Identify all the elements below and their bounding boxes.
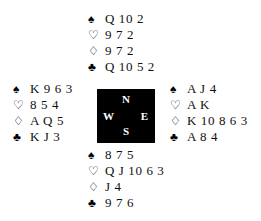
- hand-east: ♠ A J 4 ♡ A K ♢ K 10 8 6 3 ♣ A 8 4: [170, 81, 248, 145]
- hand-west-clubs-row: ♣ K J 3: [13, 129, 73, 145]
- hand-east-hearts-row: ♡ A K: [170, 97, 248, 113]
- hand-west-diamonds-row: ♢ A Q 5: [13, 113, 73, 129]
- bridge-hand-diagram: ♠ Q 10 2 ♡ 9 7 2 ♢ 9 7 2 ♣ Q 10 5 2 ♠ K …: [0, 0, 261, 221]
- hand-north-diamonds-cards: 9 7 2: [101, 43, 134, 59]
- diamond-icon: ♢: [88, 43, 101, 59]
- hand-north: ♠ Q 10 2 ♡ 9 7 2 ♢ 9 7 2 ♣ Q 10 5 2: [88, 11, 155, 75]
- hand-south: ♠ 8 7 5 ♡ Q J 10 6 3 ♢ J 4 ♣ 9 7 6: [88, 147, 164, 211]
- diamond-icon: ♢: [170, 113, 183, 129]
- hand-south-clubs-cards: 9 7 6: [101, 195, 134, 211]
- hand-east-diamonds-cards: K 10 8 6 3: [183, 113, 248, 129]
- compass-label-north: N: [122, 94, 130, 105]
- heart-icon: ♡: [88, 163, 101, 179]
- heart-icon: ♡: [88, 27, 101, 43]
- hand-south-spades-row: ♠ 8 7 5: [88, 147, 164, 163]
- hand-west-hearts-cards: 8 5 4: [26, 97, 59, 113]
- club-icon: ♣: [88, 195, 101, 211]
- hand-south-clubs-row: ♣ 9 7 6: [88, 195, 164, 211]
- hand-west: ♠ K 9 6 3 ♡ 8 5 4 ♢ A Q 5 ♣ K J 3: [13, 81, 73, 145]
- compass-label-east: E: [141, 111, 148, 122]
- hand-west-spades-row: ♠ K 9 6 3: [13, 81, 73, 97]
- club-icon: ♣: [170, 129, 183, 145]
- heart-icon: ♡: [13, 97, 26, 113]
- hand-west-hearts-row: ♡ 8 5 4: [13, 97, 73, 113]
- compass-label-west: W: [103, 111, 114, 122]
- hand-west-diamonds-cards: A Q 5: [26, 113, 64, 129]
- hand-north-diamonds-row: ♢ 9 7 2: [88, 43, 155, 59]
- hand-west-clubs-cards: K J 3: [26, 129, 60, 145]
- hand-north-hearts-cards: 9 7 2: [101, 27, 134, 43]
- hand-south-hearts-row: ♡ Q J 10 6 3: [88, 163, 164, 179]
- diamond-icon: ♢: [88, 179, 101, 195]
- spade-icon: ♠: [88, 11, 101, 27]
- compass-label-south: S: [123, 126, 129, 137]
- spade-icon: ♠: [13, 81, 26, 97]
- spade-icon: ♠: [170, 81, 183, 97]
- hand-east-clubs-row: ♣ A 8 4: [170, 129, 248, 145]
- hand-west-spades-cards: K 9 6 3: [26, 81, 73, 97]
- compass-box: N W E S: [97, 89, 155, 143]
- hand-north-clubs-cards: Q 10 5 2: [101, 59, 155, 75]
- hand-north-spades-cards: Q 10 2: [101, 11, 144, 27]
- club-icon: ♣: [88, 59, 101, 75]
- hand-east-hearts-cards: A K: [183, 97, 210, 113]
- heart-icon: ♡: [170, 97, 183, 113]
- club-icon: ♣: [13, 129, 26, 145]
- hand-south-diamonds-row: ♢ J 4: [88, 179, 164, 195]
- hand-east-spades-row: ♠ A J 4: [170, 81, 248, 97]
- hand-east-diamonds-row: ♢ K 10 8 6 3: [170, 113, 248, 129]
- hand-south-spades-cards: 8 7 5: [101, 147, 134, 163]
- hand-east-clubs-cards: A 8 4: [183, 129, 218, 145]
- hand-north-spades-row: ♠ Q 10 2: [88, 11, 155, 27]
- hand-north-clubs-row: ♣ Q 10 5 2: [88, 59, 155, 75]
- hand-north-hearts-row: ♡ 9 7 2: [88, 27, 155, 43]
- spade-icon: ♠: [88, 147, 101, 163]
- hand-south-diamonds-cards: J 4: [101, 179, 122, 195]
- hand-east-spades-cards: A J 4: [183, 81, 217, 97]
- diamond-icon: ♢: [13, 113, 26, 129]
- hand-south-hearts-cards: Q J 10 6 3: [101, 163, 164, 179]
